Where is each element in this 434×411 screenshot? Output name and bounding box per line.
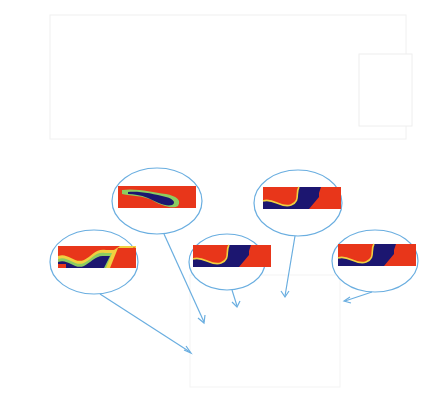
- bottom-chart: [190, 275, 340, 387]
- top-chart: [50, 15, 412, 139]
- top-plot-frame: [50, 15, 406, 139]
- top-legend: [359, 54, 412, 126]
- bottom-plot-frame: [190, 275, 340, 387]
- callout-bubble-gen-25: [254, 170, 342, 297]
- legend-box: [359, 54, 412, 126]
- figure: [0, 0, 434, 411]
- callouts: [50, 168, 418, 353]
- callout-bubble-gen-40: [332, 230, 418, 303]
- callout-bubble-gen-13: [189, 234, 271, 307]
- callout-bubble-gen-1: [50, 230, 191, 353]
